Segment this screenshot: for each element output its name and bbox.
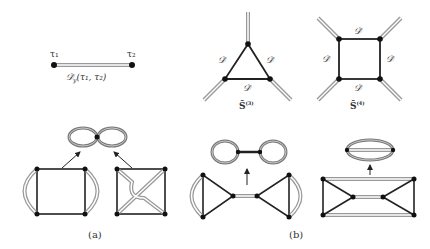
panel-b-label: (b) xyxy=(289,229,303,240)
panel-a-label: (a) xyxy=(88,229,102,240)
propagator-formula: 𝒟̄y(τ₁, τ₂) xyxy=(66,72,107,84)
edge-label: 𝒟̄ xyxy=(354,26,363,36)
edge-label: 𝒟̄ xyxy=(266,55,275,65)
edge-label: 𝒟̄ xyxy=(354,83,363,93)
edge-label: 𝒟̄ xyxy=(218,55,227,65)
vertex-dot xyxy=(51,62,57,68)
tau2-label: τ₂ xyxy=(127,49,136,59)
panel-a: (a) xyxy=(25,128,168,240)
edge-label: 𝒟̄ xyxy=(243,83,252,93)
four-point-vertex-diagram: 𝒟̄ 𝒟̄ 𝒟̄ 𝒟̄ S̄(4) xyxy=(318,18,401,111)
three-point-vertex-diagram: 𝒟̄ 𝒟̄ 𝒟̄ S̄(3) xyxy=(204,12,291,111)
feynman-diagram-figure: τ₁ τ₂ 𝒟̄y(τ₁, τ₂) 𝒟̄ 𝒟̄ 𝒟̄ S̄(3) xyxy=(0,0,430,249)
vertex-dot xyxy=(129,62,135,68)
panel-b: (b) xyxy=(192,140,417,240)
edge-label: 𝒟̄ xyxy=(322,54,331,64)
edge-label: 𝒟̄ xyxy=(386,54,395,64)
s3-label: S̄(3) xyxy=(239,100,254,111)
tau1-label: τ₁ xyxy=(50,49,59,59)
s4-label: S̄(4) xyxy=(350,100,365,111)
propagator-diagram: τ₁ τ₂ 𝒟̄y(τ₁, τ₂) xyxy=(50,49,136,84)
